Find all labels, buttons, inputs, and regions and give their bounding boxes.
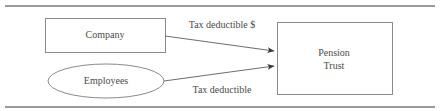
pension-trust-label-line2: Trust: [324, 60, 345, 71]
pension-flow-diagram: Company Employees Pension Trust Tax dedu…: [0, 0, 441, 111]
employees-to-trust-arrow: [164, 66, 274, 81]
pension-trust-label-line1: Pension: [318, 47, 350, 58]
pension-trust-box: [278, 23, 393, 95]
employees-label: Employees: [84, 75, 129, 86]
employees-to-trust-label: Tax deductible: [193, 84, 253, 95]
company-to-trust-label: Tax deductible $: [189, 19, 256, 30]
diagram-canvas: Company Employees Pension Trust Tax dedu…: [0, 0, 441, 111]
company-label: Company: [86, 29, 125, 40]
company-to-trust-arrow: [165, 36, 274, 51]
